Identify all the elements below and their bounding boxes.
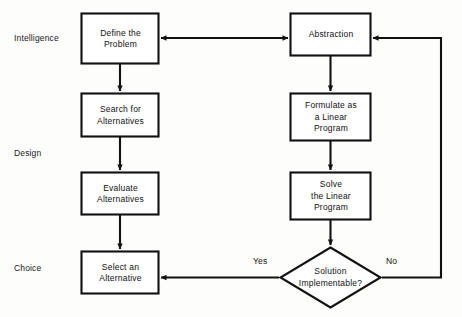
stage-label-choice: Choice	[14, 263, 41, 273]
node-rect-search-for-alternatives	[82, 94, 159, 137]
node-rect-solve-the-linear-program	[291, 173, 371, 220]
stage-label-design: Design	[14, 148, 41, 158]
node-rect-evaluate-alternatives	[82, 173, 159, 215]
stage-label-design-text: Design	[14, 148, 41, 158]
node-shapes	[82, 14, 381, 308]
node-diamond-solution-implementable	[281, 248, 381, 308]
stage-label-choice-text: Choice	[14, 263, 41, 273]
node-rect-formulate-as-a-linear-program	[291, 94, 371, 141]
edge-label-no-text: No	[386, 256, 397, 266]
edge-decision-no-to-abstraction	[373, 38, 441, 278]
edge-label-no: No	[386, 256, 397, 266]
flowchart-canvas: Intelligence Design Choice Define the Pr…	[0, 0, 462, 317]
node-rect-define-the-problem	[82, 14, 159, 64]
edge-label-yes: Yes	[253, 256, 267, 266]
node-rect-select-an-alternative	[82, 252, 159, 294]
node-rect-abstraction	[291, 14, 371, 56]
flowchart-vector-layer	[0, 0, 462, 317]
edge-lines	[120, 38, 441, 278]
edge-label-yes-text: Yes	[253, 256, 267, 266]
stage-label-intelligence-text: Intelligence	[14, 33, 59, 43]
stage-label-intelligence: Intelligence	[14, 33, 59, 43]
